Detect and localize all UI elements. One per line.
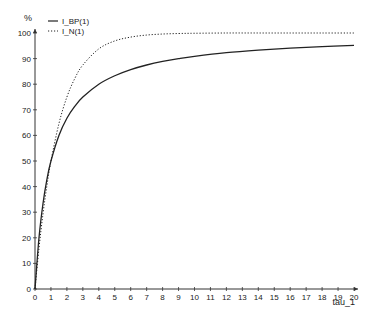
series-line-i-bp (35, 45, 354, 289)
y-tick-label: 80 (22, 80, 31, 89)
x-tick-label: 15 (270, 293, 279, 302)
y-tick-label: 10 (22, 259, 31, 268)
x-tick-label: 10 (190, 293, 199, 302)
legend-item-i-bp: I_BP(1) (62, 17, 89, 26)
x-axis-arrow-icon (354, 287, 358, 291)
series-line-i-n (35, 33, 354, 289)
x-tick-label: 0 (33, 293, 38, 302)
x-tick-label: 12 (222, 293, 231, 302)
x-tick-label: 8 (160, 293, 165, 302)
axes: 0123456789101112131415161718192001020304… (18, 29, 359, 302)
x-tick-label: 18 (318, 293, 327, 302)
x-tick-label: 4 (97, 293, 102, 302)
x-axis-label: tau_1 (332, 297, 355, 307)
y-tick-label: 90 (22, 55, 31, 64)
x-tick-label: 1 (49, 293, 54, 302)
y-tick-label: 0 (27, 285, 32, 294)
y-tick-label: 30 (22, 208, 31, 217)
x-tick-label: 9 (176, 293, 181, 302)
x-tick-label: 14 (254, 293, 263, 302)
y-tick-label: 60 (22, 131, 31, 140)
line-chart: 0123456789101112131415161718192001020304… (0, 0, 371, 325)
y-tick-label: 20 (22, 234, 31, 243)
x-tick-label: 2 (65, 293, 70, 302)
x-tick-label: 3 (81, 293, 86, 302)
y-tick-label: 50 (22, 157, 31, 166)
x-tick-label: 13 (238, 293, 247, 302)
x-tick-label: 16 (286, 293, 295, 302)
x-tick-label: 5 (113, 293, 118, 302)
y-tick-label: 100 (18, 29, 32, 38)
y-axis-arrow-icon (33, 29, 37, 33)
y-tick-label: 70 (22, 106, 31, 115)
y-axis-label: % (24, 13, 32, 23)
x-tick-label: 11 (206, 293, 215, 302)
x-tick-label: 7 (144, 293, 149, 302)
legend-item-i-n: I_N(1) (62, 27, 85, 36)
y-tick-label: 40 (22, 183, 31, 192)
series-lines (35, 33, 354, 289)
x-tick-label: 17 (302, 293, 311, 302)
legend: I_BP(1) I_N(1) (48, 17, 89, 36)
x-tick-label: 6 (128, 293, 133, 302)
